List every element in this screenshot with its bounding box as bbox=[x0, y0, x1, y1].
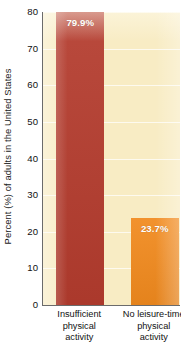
y-axis-title-text: Percent (%) of adults in the United Stat… bbox=[3, 68, 14, 244]
plot-area: 79.9%23.7% bbox=[42, 12, 180, 306]
category-label-line: Insufficient bbox=[41, 309, 117, 321]
y-axis-tick-label: 30 bbox=[27, 190, 38, 200]
y-axis-tick-label: 60 bbox=[27, 80, 38, 90]
category-label-line: No leisure-time bbox=[116, 309, 181, 321]
category-label: No leisure-timephysicalactivity bbox=[116, 309, 181, 344]
category-label-line: physical bbox=[41, 321, 117, 333]
y-axis-tick-label: 20 bbox=[27, 227, 38, 237]
category-label-line: activity bbox=[116, 332, 181, 344]
bar-value-label: 23.7% bbox=[131, 223, 179, 234]
category-label: Insufficientphysicalactivity bbox=[41, 309, 117, 344]
x-axis-category-labels: InsufficientphysicalactivityNo leisure-t… bbox=[42, 309, 181, 364]
y-axis-tick-label: 0 bbox=[33, 300, 38, 310]
y-axis-tick-label: 70 bbox=[27, 44, 38, 54]
y-axis-tick-label: 10 bbox=[27, 264, 38, 274]
y-axis-tick-label: 80 bbox=[27, 7, 38, 17]
bar[interactable]: 23.7% bbox=[131, 218, 179, 305]
bar[interactable]: 79.9% bbox=[56, 12, 104, 305]
y-axis-tick-label: 40 bbox=[27, 154, 38, 164]
category-label-line: activity bbox=[41, 332, 117, 344]
bar-chart: Percent (%) of adults in the United Stat… bbox=[0, 0, 181, 364]
y-axis-tick-label: 50 bbox=[27, 117, 38, 127]
category-label-line: physical bbox=[116, 321, 181, 333]
y-axis-tick-labels: 01020304050607080 bbox=[14, 0, 40, 312]
bar-value-label: 79.9% bbox=[56, 17, 104, 28]
bar-fill bbox=[56, 12, 104, 305]
